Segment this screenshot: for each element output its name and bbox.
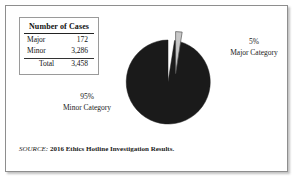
pie-slice-minor — [126, 40, 210, 124]
pie-chart — [118, 24, 226, 136]
table-header: Number of Cases — [24, 21, 94, 34]
table-row: Minor 3,286 — [24, 46, 94, 58]
source-label: SOURCE: — [19, 145, 48, 153]
source-text: 2016 Ethics Hotline Investigation Result… — [50, 145, 174, 153]
row-label-major: Major — [24, 34, 58, 46]
table-total-row: Total 3,458 — [24, 58, 94, 70]
callout-minor-category: 95% Minor Category — [44, 92, 130, 114]
cases-table-grid: Number of Cases Major 172 Minor 3,286 To… — [24, 21, 94, 70]
pie-chart-svg — [118, 24, 226, 136]
minor-category-label: Minor Category — [44, 103, 130, 114]
major-percent-label: 5% — [218, 37, 290, 48]
callout-major-category: 5% Major Category — [218, 37, 290, 59]
minor-percent-label: 95% — [44, 92, 130, 103]
table-row: Major 172 — [24, 34, 94, 46]
table-body: Major 172 Minor 3,286 Total 3,458 — [24, 34, 94, 70]
major-category-label: Major Category — [218, 48, 290, 59]
row-label-total: Total — [24, 58, 58, 70]
row-label-minor: Minor — [24, 46, 58, 58]
exhibit-figure: Number of Cases Major 172 Minor 3,286 To… — [0, 0, 298, 186]
row-value-total: 3,458 — [58, 58, 94, 70]
table-title: Number of Cases — [24, 21, 94, 34]
exhibit-frame: Number of Cases Major 172 Minor 3,286 To… — [5, 5, 288, 172]
row-value-minor: 3,286 — [58, 46, 94, 58]
table-header-row: Number of Cases — [24, 21, 94, 34]
source-note: SOURCE: 2016 Ethics Hotline Investigatio… — [19, 145, 174, 153]
number-of-cases-table: Number of Cases Major 172 Minor 3,286 To… — [19, 17, 99, 75]
row-value-major: 172 — [58, 34, 94, 46]
